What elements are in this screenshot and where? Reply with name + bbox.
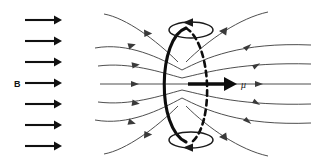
coil-front-arc-solid	[164, 28, 186, 142]
b-field-arrow	[25, 37, 62, 46]
field-line-arrowhead	[255, 81, 263, 87]
field-line-arrowhead	[252, 63, 260, 69]
b-field-arrow	[25, 58, 62, 67]
b-field-arrow	[25, 79, 62, 88]
magnetic-moment-label: μ	[240, 79, 246, 90]
magnetic-moment-arrowhead	[224, 77, 237, 91]
b-field-arrow	[25, 100, 62, 109]
b-field-label: B	[14, 79, 21, 89]
field-line	[182, 90, 311, 104]
field-line	[98, 90, 182, 103]
b-field-arrow	[25, 16, 62, 25]
top-current-arrowhead	[183, 18, 193, 27]
field-line	[186, 106, 268, 156]
uniform-b-field-group: B	[14, 16, 62, 151]
b-field-arrow	[25, 142, 62, 151]
physics-diagram: B	[0, 0, 311, 167]
field-line-arrowhead	[252, 99, 260, 105]
field-line	[98, 65, 182, 78]
bottom-current-arrowhead	[183, 143, 193, 151]
b-field-arrow	[25, 121, 62, 130]
field-line-arrowhead	[131, 81, 139, 87]
field-line	[182, 64, 311, 78]
